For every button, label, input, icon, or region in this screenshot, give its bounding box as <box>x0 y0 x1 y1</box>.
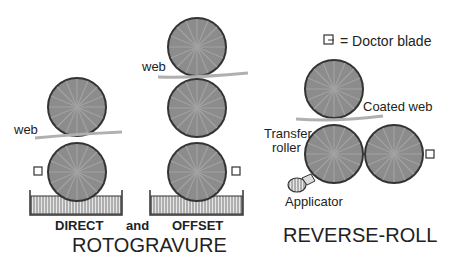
and-label: and <box>126 219 149 232</box>
offset-label: OFFSET <box>172 219 223 232</box>
gravure-roller-direct <box>48 143 106 201</box>
offset-rotogravure <box>150 18 248 215</box>
applicator-label: Applicator <box>285 195 343 208</box>
transfer-roller <box>305 125 363 183</box>
transfer-label-1: Transfer <box>264 127 312 140</box>
offset-roller <box>168 79 226 137</box>
reverse-roller <box>365 125 423 183</box>
direct-label: DIRECT <box>55 219 103 232</box>
direct-rotogravure <box>30 78 122 215</box>
gravure-roller-offset <box>168 143 226 201</box>
impression-roller-direct <box>48 78 106 136</box>
rotogravure-title: ROTOGRAVURE <box>72 235 227 255</box>
impression-roller-offset <box>168 18 226 76</box>
doctor-blade-icon <box>34 167 42 175</box>
transfer-label-2: roller <box>272 141 301 154</box>
metering-roller-top <box>305 60 363 118</box>
doctor-blade-icon <box>232 167 240 175</box>
applicator <box>288 174 315 192</box>
web-label-offset: web <box>142 60 166 73</box>
web-label-direct: web <box>14 123 38 136</box>
coated-web-label: Coated web <box>363 100 432 113</box>
reverse-roll-title: REVERSE-ROLL <box>283 225 438 245</box>
legend-text: = Doctor blade <box>340 34 431 48</box>
doctor-blade-icon <box>426 150 434 158</box>
